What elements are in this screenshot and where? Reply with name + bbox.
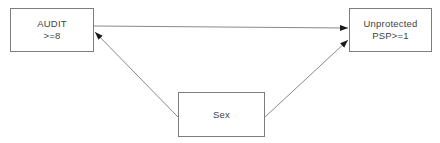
path-diagram: AUDIT >=8 Unprotected PSP>=1 Sex <box>0 0 440 143</box>
node-unprotected-label-line2: PSP>=1 <box>372 30 409 42</box>
node-unprotected-label-line1: Unprotected <box>364 18 418 30</box>
node-audit: AUDIT >=8 <box>10 8 94 52</box>
edge-sex-to-audit <box>95 32 178 117</box>
node-sex: Sex <box>178 92 265 137</box>
node-audit-label-line1: AUDIT <box>37 18 67 30</box>
node-unprotected: Unprotected PSP>=1 <box>349 8 432 52</box>
node-audit-label-line2: >=8 <box>44 30 61 42</box>
edge-sex-to-unprotected <box>265 40 348 117</box>
edge-audit-to-unprotected <box>94 26 348 28</box>
node-sex-label: Sex <box>213 109 230 121</box>
